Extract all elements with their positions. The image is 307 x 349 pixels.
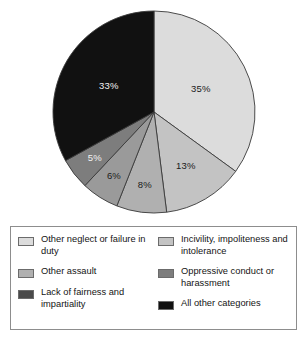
legend-item[interactable]: Lack of fairness and impartiality (18, 287, 158, 310)
pie-data-label: 33% (99, 80, 119, 91)
legend-item[interactable]: Other neglect or failure in duty (18, 234, 158, 257)
legend-item[interactable]: Incivility, impoliteness and intolerance (158, 234, 291, 257)
pie-slice-group (53, 11, 255, 213)
legend-item-label: Other assault (41, 266, 96, 278)
legend-item-label: Lack of fairness and impartiality (41, 287, 153, 310)
legend-item-label: Other neglect or failure in duty (41, 234, 153, 257)
pie-chart-figure: 35%13%8%6%5%33% Other neglect or failure… (0, 0, 307, 349)
legend: Other neglect or failure in duty Other a… (10, 226, 297, 330)
legend-item-label: All other categories (181, 298, 261, 310)
legend-swatch-icon (18, 290, 34, 299)
legend-column-left: Other neglect or failure in duty Other a… (18, 234, 158, 319)
legend-swatch-icon (18, 237, 34, 246)
pie-data-label: 35% (191, 83, 211, 94)
legend-grid: Other neglect or failure in duty Other a… (18, 234, 291, 319)
legend-item-label: Oppressive conduct or harassment (181, 266, 291, 289)
legend-swatch-icon (158, 301, 174, 310)
legend-column-right: Incivility, impoliteness and intolerance… (158, 234, 291, 319)
pie-data-label: 8% (138, 179, 152, 190)
pie-chart-plot-area: 35%13%8%6%5%33% (44, 8, 264, 216)
legend-swatch-icon (158, 237, 174, 246)
legend-item[interactable]: All other categories (158, 298, 291, 310)
legend-item-label: Incivility, impoliteness and intolerance (181, 234, 291, 257)
legend-swatch-icon (158, 269, 174, 278)
legend-item[interactable]: Oppressive conduct or harassment (158, 266, 291, 289)
legend-item[interactable]: Other assault (18, 266, 158, 278)
pie-svg: 35%13%8%6%5%33% (44, 8, 264, 216)
legend-swatch-icon (18, 269, 34, 278)
pie-data-label: 13% (176, 160, 196, 171)
pie-data-label: 5% (88, 152, 102, 163)
pie-data-label: 6% (107, 170, 121, 181)
